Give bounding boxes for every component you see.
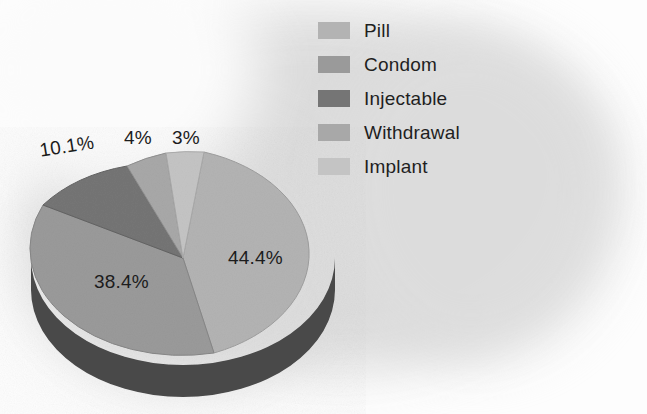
pie-chart-figure: 44.4% 38.4% 10.1% 4% 3% Pill Condom Inje…: [0, 0, 647, 414]
legend-label-implant: Implant: [364, 157, 428, 176]
legend-label-pill: Pill: [364, 21, 390, 40]
legend-label-condom: Condom: [364, 55, 437, 74]
legend-item-condom: Condom: [318, 52, 460, 76]
legend-item-withdrawal: Withdrawal: [318, 120, 460, 144]
data-label-withdrawal: 4%: [124, 127, 152, 149]
legend-item-pill: Pill: [318, 18, 460, 42]
legend-item-injectable: Injectable: [318, 86, 460, 110]
data-label-condom: 38.4%: [94, 271, 149, 293]
chart-legend: Pill Condom Injectable Withdrawal Implan…: [318, 18, 460, 178]
legend-swatch-implant: [318, 158, 350, 175]
legend-label-injectable: Injectable: [364, 89, 447, 108]
legend-swatch-withdrawal: [318, 124, 350, 141]
legend-swatch-condom: [318, 56, 350, 73]
data-label-pill: 44.4%: [228, 247, 283, 269]
legend-swatch-pill: [318, 22, 350, 39]
data-label-implant: 3%: [172, 127, 200, 149]
legend-item-implant: Implant: [318, 154, 460, 178]
legend-swatch-injectable: [318, 90, 350, 107]
legend-label-withdrawal: Withdrawal: [364, 123, 460, 142]
